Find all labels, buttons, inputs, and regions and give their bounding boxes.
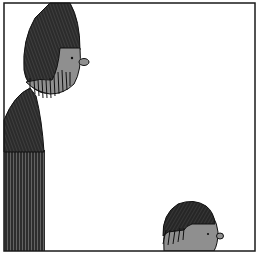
small-figure-eye	[207, 233, 209, 235]
tall-figure-nose	[79, 59, 89, 66]
tall-figure-body	[4, 150, 45, 251]
small-figure-nose	[217, 233, 224, 239]
tall-figure-eye	[71, 57, 73, 59]
